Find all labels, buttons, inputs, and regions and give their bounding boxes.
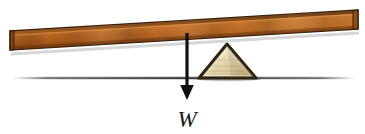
ground-group [12,76,355,80]
fulcrum-group [195,44,261,81]
lever-diagram-canvas: W [0,0,365,134]
plank-right-end-cap [353,10,358,29]
force-arrow-head [180,85,194,100]
plank-group [10,10,359,56]
plank-left-end-cap [10,31,14,50]
ground-line [12,77,355,79]
weight-label: W [177,107,198,132]
lever-diagram-figure: W [0,0,365,134]
